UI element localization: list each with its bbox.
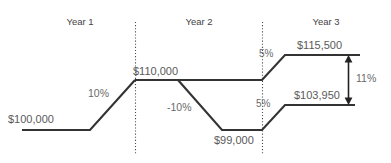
value-label-bottom-end: $103,950 bbox=[294, 89, 340, 101]
growth-label-year3-bottom: 5% bbox=[256, 98, 271, 109]
growth-paths-chart: Year 1 Year 2 Year 3 $100,000 $110,000 $… bbox=[0, 0, 391, 163]
gap-arrow-head-up bbox=[345, 55, 353, 63]
growth-label-year3-top: 5% bbox=[259, 48, 274, 59]
value-label-start: $100,000 bbox=[8, 113, 54, 125]
value-label-trough: $99,000 bbox=[214, 134, 254, 146]
chart-canvas: Year 1 Year 2 Year 3 $100,000 $110,000 $… bbox=[0, 0, 391, 163]
period-label-year3: Year 3 bbox=[312, 16, 339, 27]
period-label-year1: Year 1 bbox=[66, 16, 93, 27]
growth-label-year1: 10% bbox=[88, 87, 109, 99]
period-label-year2: Year 2 bbox=[185, 16, 212, 27]
value-label-peak: $110,000 bbox=[133, 65, 178, 77]
gap-arrow-head-down bbox=[345, 98, 353, 106]
gap-label: 11% bbox=[356, 72, 376, 84]
value-label-top-end: $115,500 bbox=[297, 39, 342, 51]
decline-label-year2: -10% bbox=[167, 101, 192, 113]
